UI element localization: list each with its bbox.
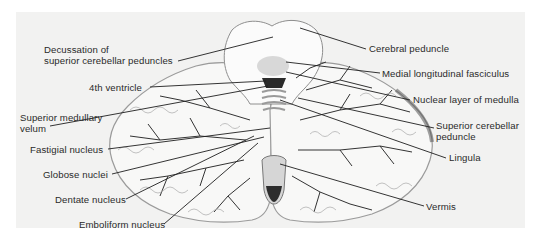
label-superior-medullary-velum: Superior medullary velum: [20, 112, 102, 134]
label-scp-line1: Superior cerebellar: [436, 120, 519, 131]
label-decussation: Decussation of superior cerebellar pedun…: [20, 44, 178, 66]
label-smv-line1: Superior medullary: [20, 112, 102, 123]
label-fastigial-nucleus: Fastigial nucleus: [30, 144, 103, 155]
label-fourth-ventricle: 4th ventricle: [89, 82, 142, 93]
label-cerebral-peduncle: Cerebral peduncle: [369, 43, 449, 54]
label-nuclear-layer-of-medulla: Nuclear layer of medulla: [413, 94, 519, 105]
label-dentate-nucleus: Dentate nucleus: [55, 194, 126, 205]
label-scp-line2: peduncle: [436, 131, 519, 142]
label-superior-cerebellar-peduncle: Superior cerebellar peduncle: [436, 120, 519, 142]
label-decussation-line1: Decussation of: [20, 44, 178, 55]
label-decussation-line2: superior cerebellar peduncles: [20, 55, 178, 66]
label-smv-line2: velum: [20, 123, 102, 134]
label-emboliform-nucleus: Emboliform nucleus: [79, 219, 165, 230]
label-vermis: Vermis: [426, 201, 456, 212]
mlf-region: [257, 56, 289, 76]
label-globose-nuclei: Globose nuclei: [43, 169, 108, 180]
label-mlf: Medial longitudinal fasciculus: [382, 68, 509, 79]
label-lingula: Lingula: [449, 152, 481, 163]
